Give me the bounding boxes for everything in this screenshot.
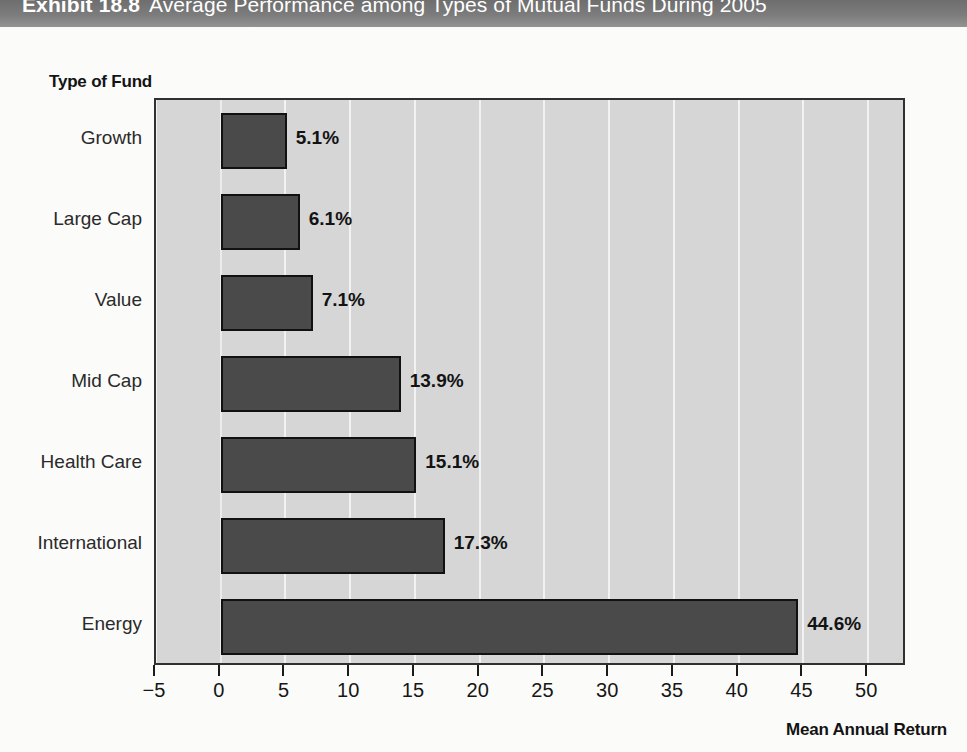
x-axis-tick: [800, 665, 802, 676]
gridline: [543, 100, 545, 663]
bar-value-label: 6.1%: [309, 208, 352, 230]
x-axis-tick: [606, 665, 608, 676]
bar-chart: Type of Fund GrowthLarge CapValueMid Cap…: [0, 27, 967, 752]
x-axis-tick-label: 20: [467, 679, 489, 702]
y-axis-label: Mid Cap: [2, 370, 142, 392]
x-axis-tick: [865, 665, 867, 676]
x-axis-tick-label: 50: [855, 679, 877, 702]
bar: [221, 599, 798, 655]
y-axis-title: Type of Fund: [49, 72, 152, 92]
gridline: [479, 100, 481, 663]
y-axis-label: Large Cap: [2, 208, 142, 230]
y-axis-category-labels: GrowthLarge CapValueMid CapHealth CareIn…: [0, 98, 142, 665]
bar-value-label: 13.9%: [410, 370, 464, 392]
x-axis-tick: [218, 665, 220, 676]
x-axis-tick: [153, 665, 155, 676]
x-axis-tick-label: 15: [402, 679, 424, 702]
x-axis-tick-label: 40: [726, 679, 748, 702]
y-axis-label: Value: [2, 289, 142, 311]
bar-value-label: 5.1%: [296, 127, 339, 149]
bar: [221, 194, 300, 250]
bar: [221, 437, 417, 493]
x-axis-tick-label: 0: [213, 679, 224, 702]
bar: [221, 113, 287, 169]
exhibit-number: Exhibit 18.8: [22, 0, 140, 16]
y-axis-label: Growth: [2, 127, 142, 149]
x-axis-tick: [347, 665, 349, 676]
y-axis-label: International: [2, 532, 142, 554]
x-axis: −505101520253035404550: [154, 665, 905, 725]
gridline: [802, 100, 804, 663]
x-axis-tick: [736, 665, 738, 676]
x-axis-tick-label: 35: [661, 679, 683, 702]
x-axis-title: Mean Annual Return: [786, 720, 947, 740]
bar-value-label: 17.3%: [454, 532, 508, 554]
gridline: [738, 100, 740, 663]
bar-value-label: 44.6%: [807, 613, 861, 635]
bar-value-label: 7.1%: [322, 289, 365, 311]
x-axis-tick: [671, 665, 673, 676]
y-axis-label: Energy: [2, 613, 142, 635]
x-axis-tick: [282, 665, 284, 676]
x-axis-tick-label: 5: [278, 679, 289, 702]
x-axis-tick-label: 10: [337, 679, 359, 702]
plot-area: [154, 98, 905, 665]
bar: [221, 356, 401, 412]
exhibit-title-inner: Exhibit 18.8Average Performance among Ty…: [22, 0, 767, 17]
gridline: [155, 100, 157, 663]
x-axis-tick-label: −5: [143, 679, 166, 702]
bar: [221, 518, 445, 574]
x-axis-tick: [477, 665, 479, 676]
y-axis-label: Health Care: [2, 451, 142, 473]
x-axis-tick-label: 45: [790, 679, 812, 702]
gridline: [673, 100, 675, 663]
exhibit-title-text: Average Performance among Types of Mutua…: [149, 0, 767, 16]
bar: [221, 275, 313, 331]
x-axis-tick: [412, 665, 414, 676]
bar-value-label: 15.1%: [425, 451, 479, 473]
x-axis-tick: [541, 665, 543, 676]
x-axis-tick-label: 30: [596, 679, 618, 702]
gridline: [608, 100, 610, 663]
x-axis-tick-label: 25: [531, 679, 553, 702]
exhibit-title-bar: Exhibit 18.8Average Performance among Ty…: [0, 0, 967, 27]
gridline: [867, 100, 869, 663]
